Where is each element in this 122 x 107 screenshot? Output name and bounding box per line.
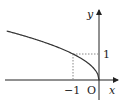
y-tick-label: 1 <box>103 48 110 61</box>
function-curve <box>7 31 99 80</box>
x-axis-label: x <box>109 84 116 97</box>
function-graph: y x O −1 1 <box>0 0 122 107</box>
origin-label: O <box>87 84 96 97</box>
x-tick-label: −1 <box>64 84 80 97</box>
y-axis-label: y <box>86 8 94 21</box>
